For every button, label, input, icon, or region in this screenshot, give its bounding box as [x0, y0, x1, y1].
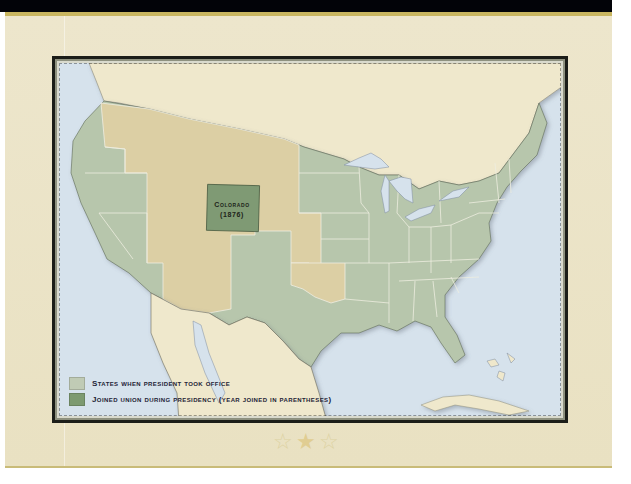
star-icon: ☆ [273, 431, 293, 453]
top-black-band [0, 0, 612, 12]
colorado-label: Colorado (1876) [207, 200, 257, 220]
legend-swatch-existing [69, 377, 85, 390]
map-legend: States when president took office Joined… [69, 374, 332, 406]
legend-swatch-joined [69, 393, 85, 406]
map-canvas: Colorado (1876) States when president to… [57, 61, 563, 418]
colorado-name: Colorado [207, 200, 257, 210]
star-icon: ☆ [319, 431, 339, 453]
legend-label-joined: Joined Union during presidency (year joi… [92, 395, 332, 404]
star-icon: ★ [296, 431, 316, 453]
colorado-year: (1876) [207, 210, 257, 220]
legend-item-joined-states: Joined Union during presidency (year joi… [69, 392, 332, 406]
us-map [59, 63, 563, 418]
map-frame: Colorado (1876) States when president to… [52, 56, 568, 423]
legend-item-existing-states: States when president took office [69, 376, 332, 390]
star-ornament: ☆ ★ ☆ [273, 431, 339, 453]
legend-label-existing: States when president took office [92, 379, 230, 388]
